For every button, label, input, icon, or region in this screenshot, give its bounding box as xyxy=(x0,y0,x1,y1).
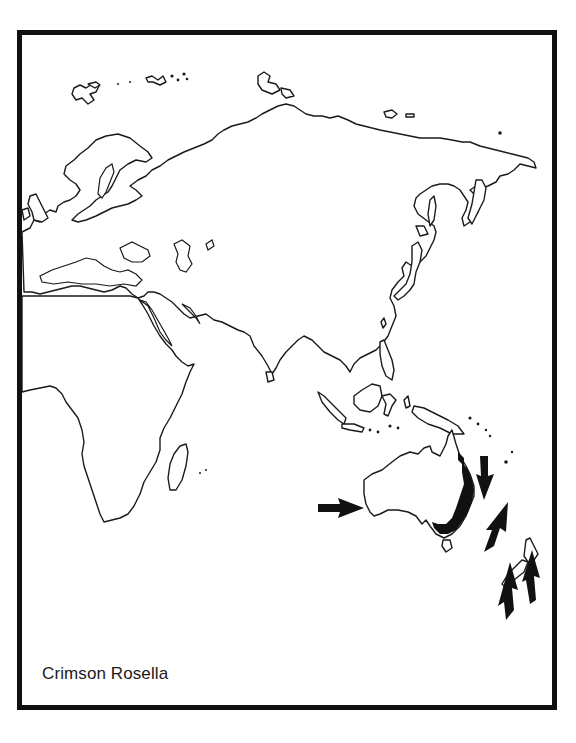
species-title: Crimson Rosella xyxy=(42,664,168,684)
arrow-tasman-sea xyxy=(484,502,508,552)
arrow-coral-sea xyxy=(476,456,494,500)
australia xyxy=(364,430,474,552)
arrow-western-australia xyxy=(318,498,364,518)
range-map xyxy=(0,0,576,743)
africa xyxy=(22,296,207,522)
